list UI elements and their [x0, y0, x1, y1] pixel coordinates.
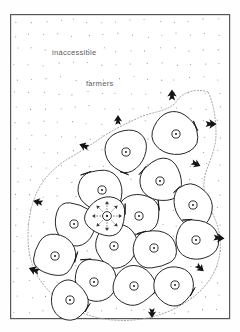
stipple-dot — [87, 312, 88, 313]
stipple-dot — [190, 266, 191, 267]
stipple-dot — [130, 63, 131, 64]
stipple-dot — [44, 92, 45, 93]
stipple-dot — [61, 165, 62, 166]
stipple-dot — [72, 121, 73, 122]
stipple-dot — [57, 33, 58, 34]
stipple-dot — [174, 22, 175, 23]
stipple-dot — [160, 47, 161, 48]
stipple-dot — [104, 109, 105, 110]
stipple-dot — [144, 50, 145, 51]
stipple-dot — [205, 93, 206, 94]
stipple-dot — [132, 35, 133, 36]
stipple-dot — [190, 64, 191, 65]
stipple-dot — [203, 152, 204, 153]
stipple-dot — [30, 180, 31, 181]
stipple-dot — [216, 309, 217, 310]
settlement-dot — [153, 247, 155, 249]
label-farmers: farmers — [86, 79, 114, 88]
stipple-dot — [119, 109, 120, 110]
stipple-dot — [71, 182, 72, 183]
stipple-dot — [202, 178, 203, 179]
stipple-dot — [43, 222, 44, 223]
stipple-dot — [147, 139, 148, 140]
stipple-dot — [45, 50, 46, 51]
settlement-dot — [69, 299, 71, 301]
stipple-dot — [220, 164, 221, 165]
stipple-dot — [14, 91, 15, 92]
stipple-dot — [177, 65, 178, 66]
stipple-dot — [205, 64, 206, 65]
settlement-dot — [195, 239, 197, 241]
stipple-dot — [76, 80, 77, 81]
stipple-dot — [71, 94, 72, 95]
stipple-dot — [217, 150, 218, 151]
stipple-dot — [47, 21, 48, 22]
stipple-dot — [160, 92, 161, 93]
stipple-dot — [132, 108, 133, 109]
stipple-dot — [17, 80, 18, 81]
stipple-dot — [15, 149, 16, 150]
stipple-dot — [101, 149, 102, 150]
stipple-dot — [159, 312, 160, 313]
stipple-dot — [189, 77, 190, 78]
stipple-dot — [162, 224, 163, 225]
settlement-dot — [125, 151, 127, 153]
stipple-dot — [219, 35, 220, 36]
stipple-dot — [101, 22, 102, 23]
stipple-dot — [75, 196, 76, 197]
stipple-dot — [115, 21, 116, 22]
stipple-dot — [206, 163, 207, 164]
stipple-dot — [90, 139, 91, 140]
origin-settlement-dot — [106, 215, 108, 217]
stipple-dot — [13, 64, 14, 65]
stipple-dot — [17, 295, 18, 296]
stipple-dot — [161, 35, 162, 36]
stipple-dot — [188, 51, 189, 52]
stipple-dot — [59, 62, 60, 63]
stipple-dot — [73, 61, 74, 62]
stipple-dot — [102, 34, 103, 35]
stipple-dot — [220, 106, 221, 107]
stipple-dot — [188, 21, 189, 22]
stipple-dot — [73, 150, 74, 151]
stipple-dot — [61, 136, 62, 137]
stipple-dot — [219, 93, 220, 94]
stipple-dot — [218, 294, 219, 295]
stipple-dot — [130, 179, 131, 180]
stipple-dot — [203, 49, 204, 50]
stipple-dot — [119, 78, 120, 79]
stipple-dot — [75, 107, 76, 108]
stipple-dot — [57, 121, 58, 122]
stipple-dot — [103, 166, 104, 167]
stipple-dot — [27, 64, 28, 65]
stipple-dot — [173, 210, 174, 211]
stipple-dot — [57, 281, 58, 282]
stipple-dot — [16, 236, 17, 237]
stipple-dot — [31, 47, 32, 48]
settlement-expansion-diagram: inaccessible farmers — [0, 0, 240, 332]
stipple-dot — [87, 250, 88, 251]
stipple-dot — [202, 309, 203, 310]
stipple-dot — [161, 80, 162, 81]
stipple-dot — [219, 225, 220, 226]
stipple-dot — [16, 208, 17, 209]
stipple-dot — [190, 34, 191, 35]
stipple-dot — [28, 122, 29, 123]
stipple-dot — [217, 207, 218, 208]
stipple-dot — [129, 120, 130, 121]
stipple-dot — [45, 78, 46, 79]
stipple-dot — [162, 62, 163, 63]
stipple-dot — [16, 106, 17, 107]
stipple-dot — [160, 268, 161, 269]
stipple-dot — [201, 282, 202, 283]
stipple-dot — [31, 22, 32, 23]
stipple-dot — [86, 22, 87, 23]
stipple-dot — [61, 20, 62, 21]
stipple-dot — [217, 79, 218, 80]
stipple-dot — [43, 34, 44, 35]
stipple-dot — [17, 268, 18, 269]
stipple-dot — [101, 310, 102, 311]
stipple-dot — [188, 311, 189, 312]
stipple-dot — [176, 225, 177, 226]
stipple-dot — [204, 33, 205, 34]
